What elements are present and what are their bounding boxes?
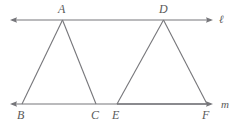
segment-DE — [117, 20, 164, 104]
line-label-m: m — [221, 99, 229, 110]
line-label-l: ℓ — [219, 14, 224, 25]
line-m-arrow-right — [206, 101, 213, 107]
triangle-DEF — [117, 20, 207, 104]
point-label-B: B — [17, 109, 24, 121]
point-label-F: F — [202, 109, 209, 121]
geometry-figure: A B C D E F ℓ m — [0, 0, 236, 123]
point-label-D: D — [159, 3, 168, 15]
segment-AB — [22, 20, 63, 104]
point-label-C: C — [91, 109, 99, 121]
line-l — [10, 17, 213, 23]
triangle-ABC — [22, 20, 96, 104]
segment-AC — [63, 20, 97, 104]
diagram-canvas — [0, 0, 236, 123]
point-label-A: A — [58, 3, 65, 15]
segment-DF — [164, 20, 208, 104]
line-l-arrow-right — [206, 17, 213, 23]
point-label-E: E — [112, 109, 119, 121]
line-m-arrow-left — [10, 101, 17, 107]
line-l-arrow-left — [10, 17, 17, 23]
